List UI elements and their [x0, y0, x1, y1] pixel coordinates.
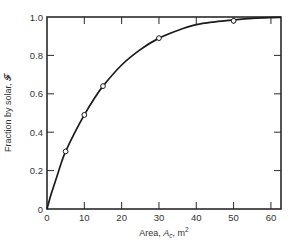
data-point-marker	[82, 113, 87, 118]
axis-ticks	[47, 17, 281, 209]
data-point-marker	[157, 36, 162, 41]
y-tick-label: 0.6	[30, 88, 43, 99]
x-tick-label: 20	[116, 212, 127, 223]
x-tick-label: 60	[266, 212, 277, 223]
x-axis-label: Area, Ac, m2	[139, 226, 189, 239]
x-tick-label: 40	[191, 212, 202, 223]
data-point-marker	[63, 149, 68, 154]
y-tick-label: 0.2	[30, 165, 43, 176]
y-axis-label: Fraction by solar, 𝓕	[3, 72, 13, 152]
x-tick-label: 10	[79, 212, 90, 223]
data-markers	[63, 18, 236, 153]
chart: 0102030405060 00.20.40.60.81.0 Area, Ac,…	[0, 0, 292, 245]
y-tick-label: 1.0	[30, 12, 43, 23]
y-tick-label: 0	[38, 204, 43, 215]
x-tick-label: 0	[44, 212, 49, 223]
plot-frame	[47, 17, 281, 209]
plot-border	[47, 17, 281, 209]
x-tick-label: 50	[228, 212, 239, 223]
data-point-marker	[231, 18, 236, 23]
x-axis-tick-labels: 0102030405060	[44, 212, 276, 223]
x-tick-label: 30	[154, 212, 165, 223]
data-point-marker	[101, 84, 106, 89]
y-tick-label: 0.4	[30, 127, 43, 138]
y-axis-tick-labels: 00.20.40.60.81.0	[30, 12, 43, 215]
y-tick-label: 0.8	[30, 50, 43, 61]
